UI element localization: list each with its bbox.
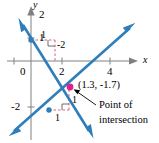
callout-note-line2: intersection	[99, 115, 148, 126]
origin-label: 0	[20, 66, 26, 77]
intersection-point-marker	[67, 84, 74, 91]
point-marker-ascending	[46, 107, 51, 112]
x-tick-label-2: 2	[59, 66, 65, 77]
y-tick-label-2: 2	[39, 9, 45, 20]
point-marker-descending	[28, 37, 33, 42]
x-axis	[7, 58, 138, 65]
y-axis	[28, 6, 35, 140]
x-tick-label-4: 4	[107, 66, 113, 77]
figure-coordinate-graph: y x 0 2 4 2 1 -2 1 -2 1 1 (1.3, -1.7) Po…	[0, 0, 159, 143]
x-axis-label: x	[143, 55, 147, 65]
slope-label-ascending-rise: 1	[72, 95, 77, 105]
y-tick-label-neg2: -2	[11, 101, 20, 112]
slope-label-descending-rise: -2	[57, 40, 65, 50]
slope-label-ascending-run: 1	[55, 113, 60, 123]
intersection-coordinate-label: (1.3, -1.7)	[78, 80, 120, 91]
callout-note-line1: Point of	[99, 100, 133, 111]
y-axis-label: y	[33, 0, 37, 10]
slope-label-descending-run: 1	[41, 30, 46, 40]
